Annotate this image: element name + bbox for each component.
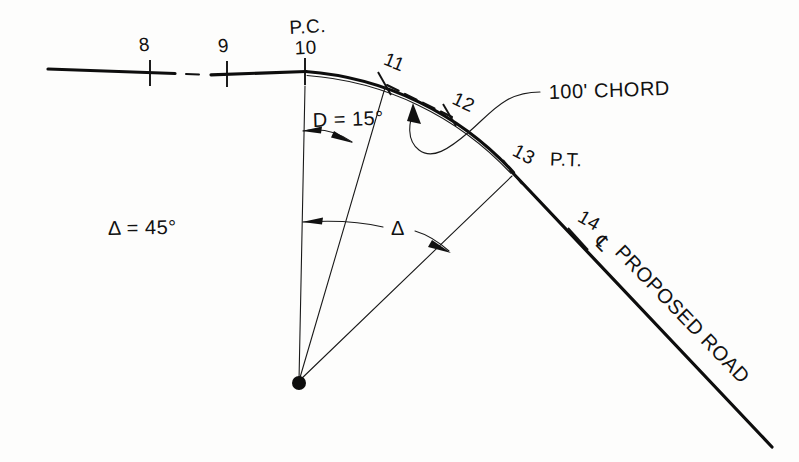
delta-angle-arrowhead-left bbox=[302, 218, 323, 225]
curve-diagram-canvas: 8 9 P.C. 10 11 12 13 P.T. 14 D = 15° Δ =… bbox=[0, 0, 799, 462]
curve-center-point bbox=[292, 376, 306, 390]
forward-tangent-group bbox=[511, 171, 772, 447]
delta-angle-arrowhead-right bbox=[428, 240, 451, 253]
delta-symbol-label: Δ bbox=[391, 217, 405, 239]
pc-marker-label: P.C. bbox=[289, 15, 327, 38]
forward-tangent-line bbox=[511, 171, 772, 447]
pt-marker-label: P.T. bbox=[550, 148, 583, 170]
text-label-group: 8 9 P.C. 10 11 12 13 P.T. 14 D = 15° Δ =… bbox=[108, 15, 755, 387]
station-label-12: 12 bbox=[449, 88, 478, 116]
station-label-8: 8 bbox=[138, 34, 151, 56]
back-tangent-break-dash bbox=[186, 74, 199, 75]
station-label-14: 14 bbox=[574, 206, 604, 235]
delta-value-label: Δ = 45° bbox=[108, 216, 177, 239]
curve-diagram-svg: 8 9 P.C. 10 11 12 13 P.T. 14 D = 15° Δ =… bbox=[0, 0, 799, 462]
station-tick-14 bbox=[568, 228, 588, 250]
chord-callout-arrowhead bbox=[407, 103, 421, 124]
station-label-10: 10 bbox=[294, 36, 317, 58]
proposed-road-label: PROPOSED ROAD bbox=[611, 240, 754, 387]
radius-line-to-pt bbox=[299, 176, 512, 381]
degree-of-curve-label: D = 15° bbox=[312, 107, 384, 131]
station-label-11: 11 bbox=[381, 48, 408, 75]
back-tangent-group bbox=[48, 69, 306, 75]
station-label-9: 9 bbox=[217, 35, 230, 57]
back-tangent-segment-left bbox=[48, 69, 175, 74]
station-label-13: 13 bbox=[509, 140, 538, 169]
delta-angle-dimension-group bbox=[302, 218, 451, 254]
station-tick-13-pt bbox=[503, 160, 522, 184]
back-tangent-segment-right bbox=[211, 72, 306, 75]
degree-of-curve-arrowhead-right bbox=[331, 131, 353, 143]
chord-callout-label: 100' CHORD bbox=[548, 77, 670, 103]
